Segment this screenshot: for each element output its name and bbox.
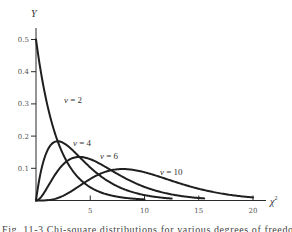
chi-square-chart: 0.10.20.30.40.5 5101520 ν = 2ν = 4ν = 6ν… xyxy=(0,0,292,232)
x-tick-label: 10 xyxy=(140,207,149,215)
y-tick-label: 0.5 xyxy=(18,36,29,44)
y-tick-label: 0.4 xyxy=(18,68,30,76)
series-label-df-4: ν = 4 xyxy=(73,138,92,148)
figure-caption: Fig. 11-3 Chi-square distributions for v… xyxy=(2,224,292,232)
x-axis-title: χ2 xyxy=(269,195,277,207)
x-tick-label: 20 xyxy=(249,207,258,215)
x-ticks: 5101520 xyxy=(88,196,257,215)
y-axis-title: Y xyxy=(31,8,38,19)
y-tick-label: 0.1 xyxy=(18,165,29,173)
series-label-df-10: ν = 10 xyxy=(160,167,183,177)
x-tick-label: 5 xyxy=(88,207,92,215)
series-label-df-6: ν = 6 xyxy=(100,151,119,161)
x-tick-label: 15 xyxy=(194,207,203,215)
y-ticks: 0.10.20.30.40.5 xyxy=(18,36,36,173)
series-curves xyxy=(36,40,253,201)
curve-df-6 xyxy=(36,157,204,201)
series-labels: ν = 2ν = 4ν = 6ν = 10 xyxy=(64,95,183,177)
y-tick-label: 0.2 xyxy=(18,133,29,141)
y-tick-label: 0.3 xyxy=(18,100,29,108)
series-label-df-2: ν = 2 xyxy=(64,95,82,105)
curve-df-2 xyxy=(36,40,145,200)
